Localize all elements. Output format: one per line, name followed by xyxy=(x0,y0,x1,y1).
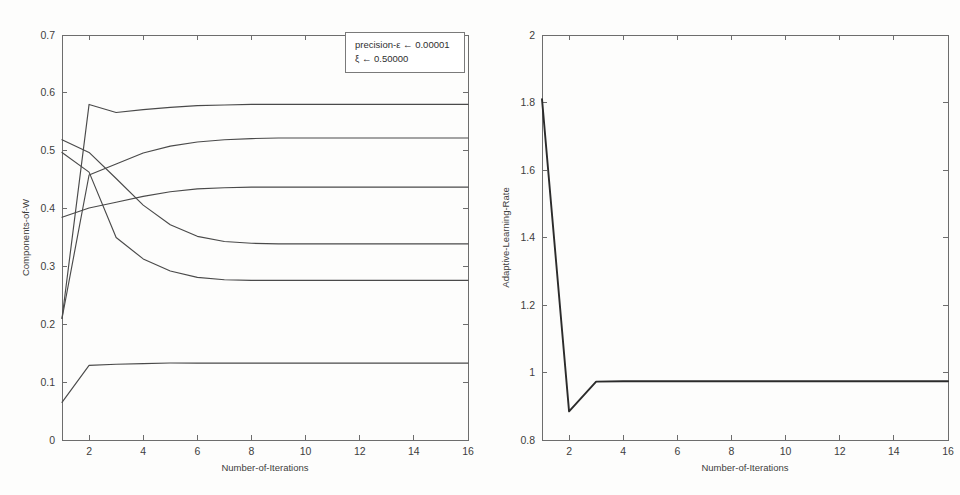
legend-line-precision: precision-ε ← 0.00001 xyxy=(355,38,455,52)
figure-canvas: 00.10.20.30.40.50.60.7246810121416Number… xyxy=(0,0,960,495)
x-tick-label: 14 xyxy=(408,445,420,457)
series-line xyxy=(62,152,468,280)
y-tick-label: 0.4 xyxy=(40,202,55,214)
y-axis-title: Adaptive-Learning-Rate xyxy=(500,187,511,287)
y-tick-label: 0.5 xyxy=(40,144,55,156)
y-tick-label: 1 xyxy=(529,366,535,378)
x-tick-label: 16 xyxy=(942,445,954,457)
plot-area-left: 00.10.20.30.40.50.60.7246810121416Number… xyxy=(0,0,480,495)
x-tick-label: 6 xyxy=(194,445,200,457)
legend-line-xi: ξ ← 0.50000 xyxy=(355,52,455,66)
x-tick-label: 8 xyxy=(249,445,255,457)
y-tick-label: 0.3 xyxy=(40,260,55,272)
x-tick-label: 12 xyxy=(834,445,846,457)
series-line xyxy=(62,187,468,217)
y-tick-label: 0.7 xyxy=(40,29,55,41)
series-line xyxy=(62,363,468,402)
plot-area-right: 0.811.21.41.61.82246810121416Number-of-I… xyxy=(480,0,960,495)
series-line xyxy=(62,138,468,319)
legend-left: precision-ε ← 0.00001 ξ ← 0.50000 xyxy=(345,32,465,73)
y-tick-label: 1.4 xyxy=(520,231,535,243)
y-tick-label: 0.6 xyxy=(40,86,55,98)
x-tick-label: 4 xyxy=(620,445,626,457)
x-axis-title: Number-of-Iterations xyxy=(221,462,308,473)
x-tick-label: 4 xyxy=(140,445,146,457)
y-tick-label: 0.8 xyxy=(520,434,535,446)
x-tick-label: 2 xyxy=(566,445,572,457)
x-axis-title: Number-of-Iterations xyxy=(701,462,788,473)
y-tick-label: 1.6 xyxy=(520,164,535,176)
chart-panel-right: 0.811.21.41.61.82246810121416Number-of-I… xyxy=(480,0,960,495)
y-tick-label: 0.2 xyxy=(40,318,55,330)
x-tick-label: 10 xyxy=(780,445,792,457)
y-tick-label: 1.2 xyxy=(520,299,535,311)
y-tick-label: 0.1 xyxy=(40,376,55,388)
x-tick-label: 10 xyxy=(300,445,312,457)
chart-panel-left: 00.10.20.30.40.50.60.7246810121416Number… xyxy=(0,0,480,495)
y-axis-title: Components-of-W xyxy=(20,199,31,276)
y-tick-label: 2 xyxy=(529,29,535,41)
y-tick-label: 1.8 xyxy=(520,96,535,108)
x-tick-label: 2 xyxy=(86,445,92,457)
x-tick-label: 12 xyxy=(354,445,366,457)
series-line xyxy=(542,99,948,411)
y-tick-label: 0 xyxy=(49,434,55,446)
x-tick-label: 6 xyxy=(674,445,680,457)
x-tick-label: 14 xyxy=(888,445,900,457)
x-tick-label: 16 xyxy=(462,445,474,457)
x-tick-label: 8 xyxy=(729,445,735,457)
series-line xyxy=(62,140,468,244)
series-line xyxy=(62,104,468,318)
